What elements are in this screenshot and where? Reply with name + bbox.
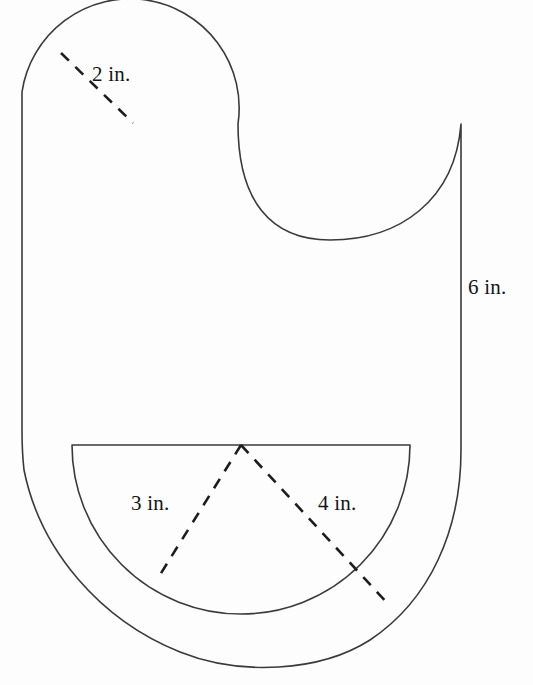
- right-side-height-label: 6 in.: [468, 275, 506, 300]
- inner-left-radius-label: 3 in.: [131, 491, 169, 516]
- inner-right-radius-dashed-line: [241, 445, 390, 606]
- outer-figure-outline: [22, 0, 461, 667]
- inner-left-radius-dashed-line: [158, 445, 241, 578]
- top-semicircle-radius-label: 2 in.: [92, 62, 130, 87]
- inner-semicircle-outline: [72, 445, 410, 614]
- inner-right-radius-label: 4 in.: [318, 491, 356, 516]
- diagram-canvas: 2 in. 6 in. 3 in. 4 in.: [0, 0, 533, 685]
- figure-svg: [0, 0, 533, 685]
